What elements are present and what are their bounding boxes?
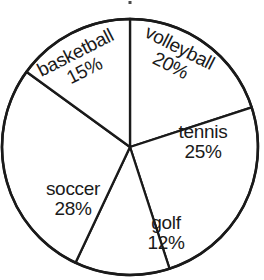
top-edge-mark: [129, 1, 132, 4]
pie-chart: volleyball 20% tennis 25% golf 12% socce…: [0, 0, 264, 280]
pie-chart-svg: [0, 0, 264, 280]
